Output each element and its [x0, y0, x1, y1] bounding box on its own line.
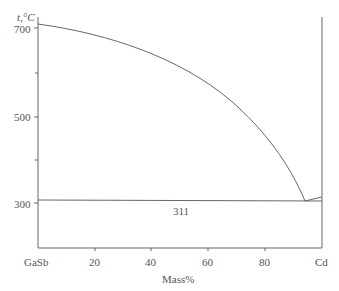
x-tick-60: 60 — [202, 256, 213, 268]
y-tick-300: 300 — [14, 198, 31, 210]
x-tick-80: 80 — [259, 256, 270, 268]
x-tick-40: 40 — [145, 256, 156, 268]
x-axis-label: Mass% — [162, 273, 194, 285]
cd-liquidus — [305, 197, 322, 201]
y-axis-label: t,°C — [17, 11, 35, 23]
eutectic-label: 311 — [173, 205, 189, 217]
x-tick-cd: Cd — [315, 256, 328, 268]
x-tick-20: 20 — [89, 256, 100, 268]
y-tick-700: 700 — [14, 23, 31, 35]
x-tick-gasb: GaSb — [24, 256, 48, 268]
eutectic-line — [38, 200, 322, 201]
phase-diagram — [0, 0, 339, 291]
liquidus-curve — [38, 24, 305, 201]
y-tick-500: 500 — [14, 111, 31, 123]
